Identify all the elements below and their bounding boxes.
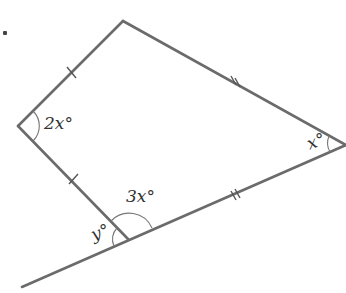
side-left-bottom xyxy=(18,126,128,239)
arc-left-angle xyxy=(33,111,39,141)
arc-right-angle xyxy=(328,136,330,152)
kite-diagram: 2x° x° 3x° y° xyxy=(0,0,346,293)
arc-bottom-interior xyxy=(111,213,152,228)
side-bottom-right-extended xyxy=(22,145,346,287)
angle-label-bottom-interior: 3x° xyxy=(126,188,155,205)
angle-label-left: 2x° xyxy=(44,115,73,132)
kite-figure xyxy=(0,0,346,293)
arc-bottom-exterior xyxy=(112,228,117,246)
side-top-left xyxy=(18,21,123,126)
